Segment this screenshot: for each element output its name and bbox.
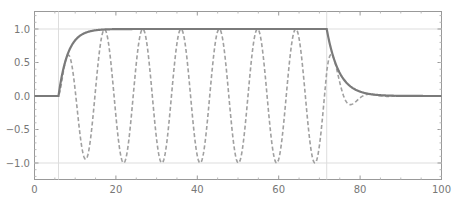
y-tick-label: 0.5: [14, 57, 30, 68]
x-tick-label: 40: [191, 184, 204, 195]
y-tick-label: −1.0: [6, 158, 30, 169]
series-lines: [35, 29, 442, 163]
x-tick-label: 60: [272, 184, 285, 195]
x-tick-label: 80: [354, 184, 367, 195]
y-tick-label: −0.5: [6, 124, 30, 135]
line-chart: 020406080100−1.0−0.50.00.51.0: [0, 0, 452, 199]
y-tick-label: 0.0: [14, 91, 30, 102]
y-tick-label: 1.0: [14, 24, 30, 35]
x-tick-label: 100: [432, 184, 451, 195]
x-tick-label: 0: [31, 184, 37, 195]
tick-labels: 020406080100−1.0−0.50.00.51.0: [6, 24, 451, 196]
x-tick-label: 20: [110, 184, 123, 195]
